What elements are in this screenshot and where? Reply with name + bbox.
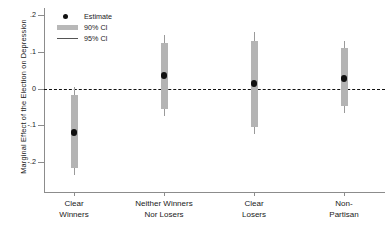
ci95-line-icon bbox=[57, 33, 79, 44]
y-tick-label: .1 bbox=[0, 47, 36, 56]
y-tick-label: -.1 bbox=[0, 120, 36, 129]
estimate-point bbox=[341, 75, 348, 82]
estimate-dot-icon bbox=[57, 11, 79, 22]
x-tick bbox=[254, 192, 255, 196]
x-axis-line bbox=[44, 192, 385, 193]
legend-item-ci95: 95% CI bbox=[57, 33, 143, 44]
marginal-effect-chart: Marginal Effect of the Election on Depre… bbox=[0, 0, 391, 230]
y-tick-label: .2 bbox=[0, 10, 36, 19]
legend-item-estimate: Estimate bbox=[57, 11, 143, 22]
x-tick bbox=[164, 192, 165, 196]
legend: Estimate 90% CI 95% CI bbox=[57, 11, 143, 44]
legend-item-ci90: 90% CI bbox=[57, 22, 143, 33]
y-tick-label: -.2 bbox=[0, 157, 36, 166]
legend-label-ci90: 90% CI bbox=[84, 23, 108, 32]
y-tick-label: 0 bbox=[0, 84, 36, 93]
legend-label-ci95: 95% CI bbox=[84, 34, 108, 43]
legend-label-estimate: Estimate bbox=[84, 12, 112, 21]
ci90-bar-icon bbox=[57, 22, 79, 33]
x-tick-label: Non-Partisan bbox=[284, 199, 391, 220]
x-tick bbox=[74, 192, 75, 196]
x-tick bbox=[344, 192, 345, 196]
